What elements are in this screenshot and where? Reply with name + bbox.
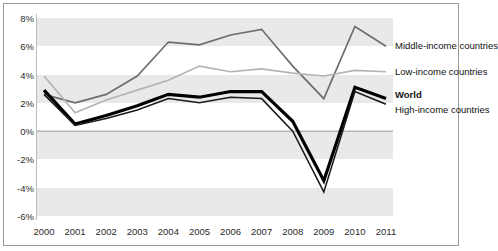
- y-tick-label: 2%: [20, 97, 34, 108]
- x-tick-label: 2009: [313, 226, 334, 237]
- legend-label: World: [395, 89, 422, 100]
- x-tick-label: 2001: [65, 226, 86, 237]
- x-tick-label: 2002: [96, 226, 117, 237]
- y-tick-label: 8%: [20, 13, 34, 24]
- x-tick-label: 2005: [189, 226, 210, 237]
- series-line: [44, 92, 386, 192]
- series-line: [44, 26, 386, 102]
- chart-frame: 8%6%4%2%0%-2%-4%-6% 20002001200220032004…: [3, 3, 459, 246]
- series-line: [44, 87, 386, 180]
- y-tick-label: -4%: [17, 182, 34, 193]
- x-tick-label: 2008: [282, 226, 303, 237]
- series-lines: [37, 18, 393, 216]
- x-tick-label: 2006: [220, 226, 241, 237]
- plot-area: [37, 18, 393, 216]
- y-tick-label: -2%: [17, 154, 34, 165]
- y-axis-labels: 8%6%4%2%0%-2%-4%-6%: [4, 18, 34, 216]
- legend-label: High-income countries: [395, 104, 490, 115]
- y-tick-label: 6%: [20, 41, 34, 52]
- legend-label: Middle-income countries: [395, 40, 498, 51]
- x-tick-label: 2010: [344, 226, 365, 237]
- x-tick-label: 2011: [376, 226, 396, 237]
- y-tick-label: 0%: [20, 126, 34, 137]
- y-tick-label: 4%: [20, 69, 34, 80]
- x-tick-label: 2000: [33, 226, 54, 237]
- legend-label: Low-income countries: [395, 66, 487, 77]
- y-tick-label: -6%: [17, 211, 34, 222]
- x-tick-label: 2004: [158, 226, 179, 237]
- x-axis-labels: 2000200120022003200420052006200720082009…: [37, 226, 393, 240]
- x-tick-label: 2007: [251, 226, 272, 237]
- x-tick-label: 2003: [127, 226, 148, 237]
